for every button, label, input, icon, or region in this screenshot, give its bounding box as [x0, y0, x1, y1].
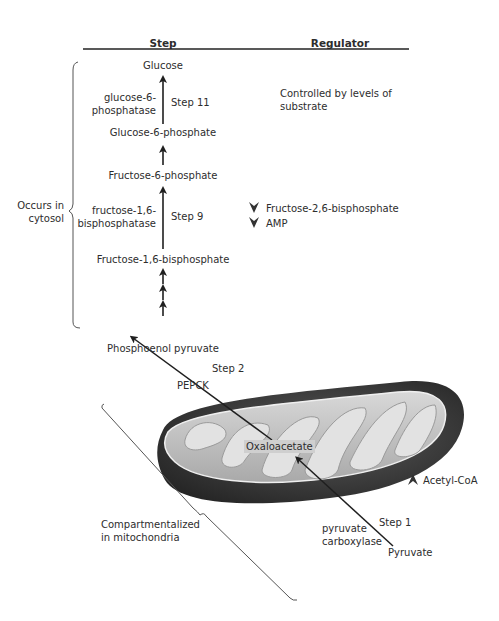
diagram-graphics	[0, 0, 499, 621]
step1-enzyme: pyruvate carboxylase	[322, 522, 382, 548]
regulator-fructose-2-6-bisphosphate: Fructose-2,6-bisphosphate	[266, 202, 399, 215]
regulator-acetyl-coa: Acetyl-CoA	[423, 474, 477, 487]
step9-enzyme: fructose-1,6- bisphosphatase	[60, 204, 156, 230]
metabolite-pyruvate: Pyruvate	[388, 546, 433, 559]
metabolite-glucose-6-phosphate: Glucose-6-phosphate	[103, 126, 223, 139]
regulator-amp: AMP	[266, 217, 288, 230]
compartment-cytosol-label: Occurs in cytosol	[0, 199, 64, 225]
step2-enzyme: PEPCK	[177, 379, 209, 392]
step11-label: Step 11	[171, 96, 210, 109]
compartment-mitochondria-label: Compartmentalized in mitochondria	[101, 518, 200, 544]
regulator-step11: Controlled by levels of substrate	[280, 87, 392, 113]
metabolite-glucose: Glucose	[123, 59, 203, 72]
inhibit-chevron-down-icon	[249, 217, 259, 228]
step11-enzyme: glucose-6- phosphatase	[80, 91, 156, 117]
step1-label: Step 1	[379, 516, 411, 529]
inhibit-chevron-down-icon	[249, 202, 259, 213]
step9-label: Step 9	[171, 210, 203, 223]
cytosol-brace	[69, 62, 80, 328]
metabolite-fructose-1-6-bisphosphate: Fructose-1,6-bisphosphate	[88, 253, 238, 266]
metabolite-oxaloacetate: Oxaloacetate	[244, 440, 315, 453]
metabolite-phosphoenol-pyruvate: Phosphoenol pyruvate	[98, 342, 228, 355]
metabolite-fructose-6-phosphate: Fructose-6-phosphate	[103, 169, 223, 182]
step2-label: Step 2	[212, 362, 244, 375]
